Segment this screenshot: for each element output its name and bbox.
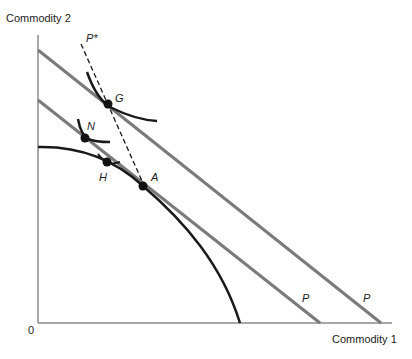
trade-diagram: Commodity 2 Commodity 1 0 P* P P G N H A xyxy=(0,0,412,359)
point-g xyxy=(104,100,113,109)
inner-p-label: P xyxy=(302,292,310,304)
point-a xyxy=(139,182,148,191)
point-h xyxy=(103,158,112,167)
label-h: H xyxy=(99,171,107,183)
label-n: N xyxy=(87,120,95,132)
y-axis-label: Commodity 2 xyxy=(6,12,71,24)
origin-label: 0 xyxy=(28,324,34,336)
point-n xyxy=(81,134,90,143)
label-g: G xyxy=(115,92,124,104)
inner-price-line xyxy=(38,100,320,323)
outer-p-label: P xyxy=(363,292,371,304)
p-star-label: P* xyxy=(86,32,98,44)
x-axis-label: Commodity 1 xyxy=(332,333,397,345)
outer-price-line xyxy=(38,50,381,323)
label-a: A xyxy=(150,171,158,183)
